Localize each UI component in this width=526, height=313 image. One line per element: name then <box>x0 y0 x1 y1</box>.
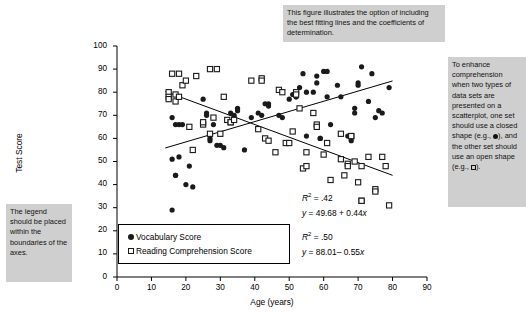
legend[interactable]: Vocabulary Score Reading Comprehension S… <box>118 224 290 264</box>
data-point-open-square <box>259 78 264 83</box>
callout-right-note: To enhance comprehension when two types … <box>448 57 526 207</box>
data-point-open-square <box>383 164 388 169</box>
data-point-open-square <box>194 73 199 78</box>
y-tick-label: 40 <box>85 179 107 188</box>
data-point-closed-circle <box>249 115 254 120</box>
data-point-open-square <box>190 147 195 152</box>
callout-left-note: The legend should be placed within the b… <box>6 204 72 282</box>
data-point-open-square <box>249 78 254 83</box>
data-point-closed-circle <box>280 115 285 120</box>
data-point-closed-circle <box>259 113 264 118</box>
legend-label-vocabulary: Vocabulary Score <box>136 232 201 242</box>
data-point-open-square <box>314 124 319 129</box>
y-tick-label: 80 <box>85 87 107 96</box>
data-point-open-square <box>325 140 330 145</box>
data-point-open-square <box>221 94 226 99</box>
data-point-open-square <box>373 189 378 194</box>
data-point-open-square <box>387 203 392 208</box>
data-point-open-square <box>304 164 309 169</box>
data-point-open-square <box>328 177 333 182</box>
legend-item-reading-comprehension[interactable]: Reading Comprehension Score <box>128 246 252 256</box>
x-axis-title: Age (years) <box>197 297 347 307</box>
data-point-closed-circle <box>204 113 209 118</box>
data-point-open-square <box>218 131 223 136</box>
data-point-closed-circle <box>352 110 357 115</box>
data-point-open-square <box>290 129 295 134</box>
data-point-closed-circle <box>373 115 378 120</box>
data-point-closed-circle <box>173 173 178 178</box>
data-point-closed-circle <box>335 83 340 88</box>
data-point-open-square <box>338 157 343 162</box>
data-point-open-square <box>256 127 261 132</box>
y-tick-label: 70 <box>85 110 107 119</box>
data-point-closed-circle <box>300 71 305 76</box>
x-tick-label: 10 <box>140 283 162 292</box>
y-tick-label: 60 <box>85 133 107 142</box>
data-point-closed-circle <box>325 94 330 99</box>
data-point-open-square <box>170 71 175 76</box>
y-tick-label: 10 <box>85 248 107 257</box>
data-point-open-square <box>211 115 216 120</box>
data-point-closed-circle <box>304 90 309 95</box>
data-point-closed-circle <box>325 69 330 74</box>
data-point-closed-circle <box>183 182 188 187</box>
data-point-open-square <box>342 173 347 178</box>
callout-right-text-1: To enhance comprehension when two types … <box>452 60 517 140</box>
legend-item-vocabulary[interactable]: Vocabulary Score <box>128 232 201 242</box>
data-point-closed-circle <box>211 122 216 127</box>
data-point-open-square <box>287 140 292 145</box>
data-point-open-square <box>232 117 237 122</box>
data-point-closed-circle <box>366 99 371 104</box>
callout-top-note: This figure illustrates the option of in… <box>283 5 445 42</box>
data-point-open-square <box>345 164 350 169</box>
x-tick-label: 70 <box>347 283 369 292</box>
y-tick-label: 30 <box>85 202 107 211</box>
data-point-closed-circle <box>314 73 319 78</box>
data-point-open-square <box>183 78 188 83</box>
x-tick-label: 20 <box>175 283 197 292</box>
y-tick-label: 0 <box>85 272 107 281</box>
data-point-closed-circle <box>170 157 175 162</box>
data-point-open-square <box>321 152 326 157</box>
callout-right-text-3: ). <box>476 162 481 171</box>
x-tick-label: 0 <box>106 283 128 292</box>
y-tick-label: 20 <box>85 225 107 234</box>
data-point-open-square <box>352 159 357 164</box>
figure-container: Test Score Age (years) 01020304050607080… <box>0 0 526 313</box>
data-point-open-square <box>176 94 181 99</box>
data-point-open-square <box>304 150 309 155</box>
data-point-closed-circle <box>170 207 175 212</box>
data-point-open-square <box>207 67 212 72</box>
data-point-closed-circle <box>190 184 195 189</box>
trend-line <box>165 91 392 175</box>
data-point-open-square <box>380 154 385 159</box>
data-point-closed-circle <box>318 136 323 141</box>
closed-circle-marker-icon <box>128 234 134 240</box>
y-axis-title: Test Score <box>14 113 24 193</box>
data-point-open-square <box>356 180 361 185</box>
data-point-open-square <box>349 133 354 138</box>
data-point-open-square <box>359 164 364 169</box>
y-tick-label: 100 <box>85 41 107 50</box>
equation-reading: y = 88.01– 0.55x <box>302 247 364 257</box>
data-point-open-square <box>166 97 171 102</box>
data-point-closed-circle <box>235 108 240 113</box>
data-point-closed-circle <box>242 147 247 152</box>
open-square-marker-icon <box>128 248 134 254</box>
data-point-open-square <box>207 131 212 136</box>
r-squared-vocabulary-value: = .42 <box>311 193 332 203</box>
data-point-open-square <box>280 90 285 95</box>
y-tick-label: 90 <box>85 64 107 73</box>
data-point-closed-circle <box>338 94 343 99</box>
data-point-closed-circle <box>328 122 333 127</box>
x-tick-label: 30 <box>209 283 231 292</box>
data-point-open-square <box>176 71 181 76</box>
data-point-closed-circle <box>207 138 212 143</box>
legend-label-reading-comprehension: Reading Comprehension Score <box>136 246 252 256</box>
data-point-closed-circle <box>352 106 357 111</box>
r-squared-vocabulary: R2 = .42 <box>302 192 333 203</box>
data-point-closed-circle <box>369 71 374 76</box>
data-point-closed-circle <box>314 80 319 85</box>
series-closed-circle <box>170 64 392 212</box>
data-point-open-square <box>359 198 364 203</box>
